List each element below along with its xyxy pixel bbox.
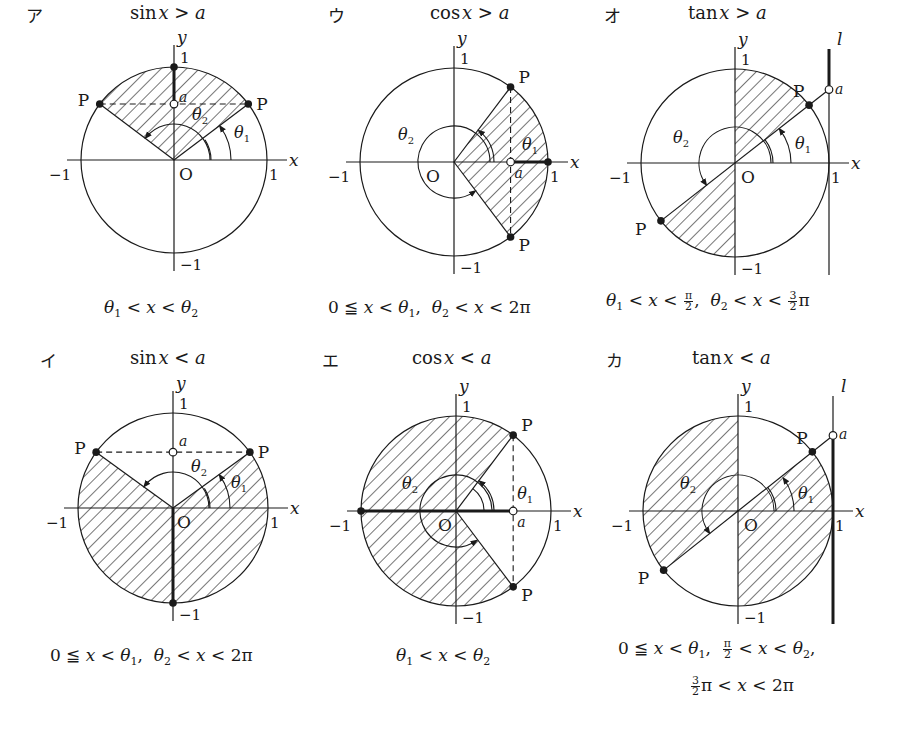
point-label-P: P	[796, 428, 807, 448]
point-P-upper	[507, 83, 515, 91]
tick-label-y-minus1: −1	[179, 606, 201, 624]
theta1-label: θ1	[795, 134, 811, 155]
point-P-lower	[657, 217, 665, 225]
point-dot-y1	[170, 63, 178, 71]
y-axis-label: y	[458, 376, 469, 396]
point-a	[825, 86, 833, 94]
tick-label-x-minus1: −1	[609, 169, 631, 187]
theta2-label: θ2	[191, 457, 207, 478]
x-axis-label: x	[573, 501, 583, 521]
point-label-P: P	[258, 442, 269, 462]
point-P-left	[92, 448, 100, 456]
line-l-label: l	[837, 29, 842, 49]
a-label: a	[839, 426, 847, 442]
theta1-label: θ1	[517, 484, 533, 505]
x-axis-label: x	[570, 152, 580, 172]
point-label-P: P	[635, 219, 646, 239]
y-axis-label: y	[175, 373, 186, 393]
point-dot-x1	[544, 158, 552, 166]
unit-circle-diagrams: xy1−11−1OPPaθ1θ2xy1−11−1OPPaθ1θ2xy1−11−1…	[0, 0, 902, 736]
tick-label-x-minus1: −1	[611, 517, 633, 535]
theta2-label: θ2	[673, 128, 689, 149]
y-axis-label: y	[176, 27, 187, 47]
point-label-P: P	[256, 94, 267, 114]
point-P-lower	[509, 583, 517, 591]
point-P-upper	[809, 448, 817, 456]
origin-label: O	[741, 167, 755, 187]
point-label-P: P	[793, 81, 804, 101]
origin-label: O	[744, 515, 758, 535]
tick-label-x-1: 1	[269, 166, 279, 184]
point-a	[169, 448, 177, 456]
tick-label-x-1: 1	[835, 517, 845, 535]
tick-label-y-1: 1	[744, 398, 754, 416]
tick-label-y-1: 1	[741, 51, 751, 69]
point-label-P: P	[74, 438, 85, 458]
point-label-P: P	[521, 585, 532, 605]
tick-label-x-minus1: −1	[328, 168, 350, 186]
tick-label-y-1: 1	[180, 49, 190, 67]
origin-label: O	[177, 512, 191, 532]
diagram-sin-less: xy1−11−1OPPaθ1θ2	[46, 373, 300, 624]
tick-label-x-minus1: −1	[49, 166, 71, 184]
tick-label-x-1: 1	[270, 514, 280, 532]
tick-label-y-minus1: −1	[462, 609, 484, 627]
tick-label-y-minus1: −1	[741, 260, 763, 278]
origin-label: O	[426, 166, 440, 186]
tick-label-x-minus1: −1	[46, 514, 68, 532]
a-label: a	[179, 433, 187, 449]
diagram-cos-greater: xy1−11−1OPPaθ1θ2	[328, 28, 580, 277]
a-label: a	[517, 514, 525, 530]
origin-label: O	[179, 164, 193, 184]
angle-arc-theta1-inner	[473, 489, 484, 511]
y-axis-label: y	[740, 376, 751, 396]
tick-label-y-1: 1	[179, 395, 189, 413]
tick-label-x-minus1: −1	[329, 517, 351, 535]
point-P-right	[246, 448, 254, 456]
point-P-left	[96, 100, 104, 108]
tick-label-x-1: 1	[550, 168, 560, 186]
point-a	[170, 100, 178, 108]
point-label-P: P	[521, 415, 532, 435]
y-axis-label: y	[456, 28, 467, 48]
x-axis-label: x	[851, 153, 861, 173]
tick-label-x-1: 1	[831, 169, 841, 187]
x-axis-label: x	[290, 498, 300, 518]
tick-label-y-minus1: −1	[460, 259, 482, 277]
point-P-lower	[507, 233, 515, 241]
point-label-P: P	[638, 568, 649, 588]
point-a	[507, 158, 515, 166]
origin-label: O	[438, 515, 452, 535]
x-axis-label: x	[289, 150, 299, 170]
diagram-sin-greater: xy1−11−1OPPaθ1θ2	[49, 27, 299, 274]
point-label-P: P	[519, 67, 530, 87]
y-axis-label: y	[737, 29, 748, 49]
point-P-lower	[660, 566, 668, 574]
tick-label-x-1: 1	[553, 517, 563, 535]
tick-label-y-minus1: −1	[180, 256, 202, 274]
a-label: a	[835, 81, 843, 97]
point-label-P: P	[519, 235, 530, 255]
angle-arc-theta1	[780, 130, 791, 163]
tick-label-y-minus1: −1	[744, 609, 766, 627]
tick-label-y-1: 1	[462, 398, 472, 416]
diagram-tan-less: xy1−11−1OPPalθ1θ2	[611, 376, 865, 627]
a-label: a	[179, 89, 187, 105]
theta2-label: θ2	[398, 125, 414, 146]
point-P-upper	[509, 431, 517, 439]
x-axis-label: x	[855, 501, 865, 521]
theta1-label: θ1	[234, 123, 250, 144]
point-P-upper	[805, 101, 813, 109]
point-dot-y-minus1	[169, 599, 177, 607]
point-a	[509, 507, 517, 515]
diagram-tan-greater: xy1−11−1OPPalθ1θ2	[609, 29, 861, 278]
shaded-region	[661, 163, 735, 257]
point-P-right	[244, 100, 252, 108]
point-dot-x-minus1	[357, 507, 365, 515]
line-l-label: l	[841, 376, 846, 396]
diagram-cos-less: xy1−11−1OPPaθ1θ2	[329, 376, 583, 627]
tick-label-y-1: 1	[460, 50, 470, 68]
a-label: a	[515, 165, 523, 181]
angle-arc-theta1	[221, 127, 231, 160]
point-a	[829, 432, 837, 440]
